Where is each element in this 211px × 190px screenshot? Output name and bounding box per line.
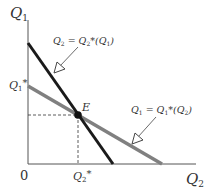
firm2-reaction-line [28, 43, 113, 164]
reaction-function-diagram: Q1 Q2 0 Q1* Q2* E Q2 = Q2*(Q1) Q1 = Q1*(… [0, 0, 211, 190]
y-tick-q1-star: Q1* [9, 77, 28, 93]
x-axis-label: Q2 [186, 170, 204, 189]
origin-label: 0 [20, 168, 28, 183]
firm1-reaction-line [28, 86, 162, 164]
y-axis-label: Q1 [10, 4, 28, 23]
equilibrium-point [74, 111, 82, 119]
firm1-reaction-label: Q1 = Q1*(Q2) [131, 104, 192, 116]
firm2-reaction-label: Q2 = Q2*(Q1) [53, 35, 114, 47]
equilibrium-label: E [81, 101, 90, 114]
arrow-firm2-label [54, 47, 78, 73]
x-tick-q2-star: Q2* [73, 168, 92, 184]
arrow-firm1-label [132, 117, 156, 144]
